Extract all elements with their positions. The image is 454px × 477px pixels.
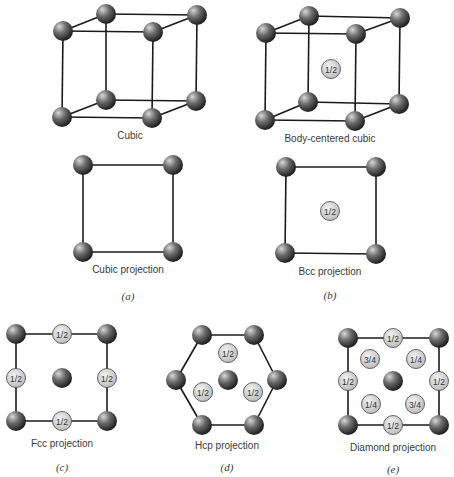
atom-sphere	[142, 108, 162, 128]
lattice-edge	[152, 32, 153, 118]
atom-sphere	[345, 111, 365, 131]
fractional-atom: 1/2	[53, 325, 72, 344]
fractional-height-label: 1/2	[10, 374, 22, 384]
atom-sphere	[53, 21, 73, 41]
fractional-height-label: 1/2	[56, 330, 68, 340]
lattice-edge	[285, 167, 286, 253]
atom-sphere	[52, 107, 72, 127]
atom-sphere	[73, 242, 93, 262]
atom-sphere	[163, 155, 183, 175]
atom-sphere	[366, 244, 386, 264]
atom-sphere	[429, 415, 449, 435]
lattice-edge	[62, 31, 63, 117]
fractional-height-label: 1/2	[325, 65, 337, 75]
bcc-projection-fractional-atoms: 1/2	[321, 202, 340, 221]
atom-sphere	[244, 415, 264, 435]
fractional-height-label: 1/4	[365, 400, 377, 410]
atom-sphere	[244, 325, 264, 345]
fractional-atom: 1/2	[322, 60, 341, 79]
atom-sphere	[6, 411, 26, 431]
fractional-height-label: 1/2	[56, 417, 68, 427]
lattice-edge	[62, 117, 152, 118]
lattice-edge	[106, 100, 196, 101]
fractional-height-label: 1/2	[222, 349, 234, 359]
fractional-atom: 1/2	[7, 369, 26, 388]
panel-letter: (a)	[122, 290, 135, 303]
fractional-height-label: 1/2	[101, 374, 113, 384]
fractional-height-label: 1/2	[387, 334, 399, 344]
atom-sphere	[429, 328, 449, 348]
cubic-projection-edges	[83, 165, 173, 252]
panel-letter: (e)	[387, 463, 400, 476]
fractional-atom: 3/4	[361, 350, 380, 369]
atom-sphere	[52, 368, 72, 388]
fractional-height-label: 3/4	[364, 355, 376, 365]
lattice-atoms	[6, 4, 449, 435]
atom-sphere	[96, 4, 116, 24]
fractional-height-label: 1/4	[410, 355, 422, 365]
bcc-projection-caption: Bcc projection	[299, 266, 362, 277]
fractional-atom: 1/2	[244, 383, 263, 402]
atom-sphere	[96, 90, 116, 110]
atom-sphere	[346, 24, 366, 44]
lattice-edge	[196, 15, 197, 101]
atom-sphere	[218, 370, 238, 390]
cubic-edges	[62, 14, 197, 118]
cubic-projection-caption: Cubic projection	[92, 264, 164, 275]
fractional-height-label: 1/2	[324, 207, 336, 217]
fcc-projection-caption: Fcc projection	[31, 438, 93, 449]
fractional-atom: 1/2	[53, 412, 72, 431]
atom-sphere	[143, 22, 163, 42]
fractional-height-label: 1/2	[433, 377, 445, 387]
cubic-projection-atoms	[73, 155, 183, 262]
fractional-atom: 1/2	[98, 369, 117, 388]
fractional-atom: 3/4	[406, 395, 425, 414]
lattice-edge	[285, 253, 376, 254]
hcp-projection-caption: Hcp projection	[195, 440, 259, 451]
fractional-atom: 1/4	[407, 350, 426, 369]
lattice-edge	[355, 34, 356, 121]
lattice-edge	[309, 16, 400, 18]
atom-sphere	[390, 8, 410, 28]
atom-sphere	[73, 155, 93, 175]
crystal-structure-diagram: 1/21/21/21/21/21/21/21/21/21/21/21/21/23…	[0, 0, 454, 477]
atom-sphere	[366, 157, 386, 177]
panel-letter: (b)	[324, 289, 337, 302]
lattice-edge	[106, 14, 197, 15]
fractional-height-label: 1/2	[387, 421, 399, 431]
atom-sphere	[298, 92, 318, 112]
atom-sphere	[163, 242, 183, 262]
lattice-edge	[265, 120, 355, 121]
fractional-atom: 1/2	[194, 383, 213, 402]
lattice-edge	[63, 31, 153, 32]
atom-sphere	[255, 110, 275, 130]
atom-sphere	[276, 157, 296, 177]
atom-sphere	[192, 325, 212, 345]
atom-sphere	[187, 5, 207, 25]
bcc-caption: Body-centered cubic	[284, 133, 375, 144]
atom-sphere	[97, 324, 117, 344]
atom-sphere	[338, 415, 358, 435]
atom-sphere	[256, 23, 276, 43]
fractional-atom: 1/2	[384, 416, 403, 435]
atom-sphere	[275, 243, 295, 263]
panel-letter: (d)	[221, 461, 234, 474]
lattice-edge	[265, 33, 266, 120]
fractional-height-label: 1/2	[197, 388, 209, 398]
fractional-height-label: 1/2	[247, 388, 259, 398]
cubic-atoms	[52, 4, 207, 128]
lattice-edge	[308, 102, 399, 104]
cubic-caption: Cubic	[117, 130, 143, 141]
lattice-edge	[308, 16, 309, 102]
lattice-edge	[399, 18, 400, 104]
lattice-edge	[266, 33, 356, 34]
atom-sphere	[338, 328, 358, 348]
panel-letter: (c)	[56, 461, 69, 474]
hcp-projection-atoms	[166, 325, 287, 435]
fractional-atom: 1/2	[321, 202, 340, 221]
atom-sphere	[97, 411, 117, 431]
fractional-atom: 1/2	[430, 372, 449, 391]
atom-sphere	[6, 324, 26, 344]
fractional-atom: 1/2	[384, 329, 403, 348]
fractional-atom: 1/4	[362, 395, 381, 414]
